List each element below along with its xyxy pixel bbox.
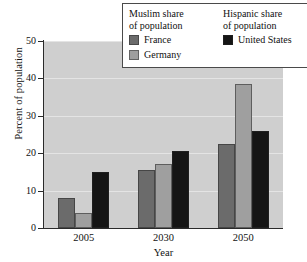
y-axis-tick-label: 20 bbox=[2, 148, 36, 158]
x-axis-tick-label-2030: 2030 bbox=[134, 232, 194, 243]
bar-germany-2050 bbox=[235, 84, 252, 228]
y-axis-tick-label: 40 bbox=[2, 73, 36, 83]
y-axis-tick-label-wrap: 30 bbox=[0, 111, 36, 121]
legend-label-france: France bbox=[144, 34, 171, 45]
plot-area bbox=[44, 41, 283, 228]
x-axis-line bbox=[43, 228, 283, 229]
y-axis-tick-label: 0 bbox=[2, 223, 36, 233]
bar-france-2050 bbox=[218, 144, 235, 228]
y-axis-tick-label: 30 bbox=[2, 111, 36, 121]
bar-germany-2030 bbox=[155, 164, 172, 228]
x-axis-tick-label-2050: 2050 bbox=[213, 232, 273, 243]
y-axis-tick-label-wrap: 50 bbox=[0, 36, 36, 46]
bar-united-states-2005 bbox=[92, 172, 109, 228]
legend-item-united-states: United States bbox=[223, 33, 307, 46]
legend-item-germany: Germany bbox=[129, 48, 221, 61]
y-axis-line bbox=[43, 40, 44, 229]
legend-swatch-germany-icon bbox=[129, 50, 139, 60]
legend-column-muslim: Muslim share of population France German… bbox=[129, 8, 221, 61]
legend-heading-line1: Hispanic share bbox=[223, 8, 307, 20]
legend-label-united-states: United States bbox=[238, 34, 292, 45]
legend-heading-line1: Muslim share bbox=[129, 8, 221, 20]
y-axis-tick-label-wrap: 20 bbox=[0, 148, 36, 158]
legend-swatch-united-states-icon bbox=[223, 35, 233, 45]
bar-germany-2005 bbox=[75, 213, 92, 228]
y-axis-tick-label-wrap: 40 bbox=[0, 73, 36, 83]
bar-chart-figure: Percent of population 01020304050 200520… bbox=[0, 0, 307, 262]
gridline bbox=[44, 78, 283, 79]
y-axis-tick-label-wrap: 0 bbox=[0, 223, 36, 233]
x-axis-tick-label-2005: 2005 bbox=[54, 232, 114, 243]
legend-item-france: France bbox=[129, 33, 221, 46]
x-axis-title: Year bbox=[44, 247, 283, 258]
bar-united-states-2030 bbox=[172, 151, 189, 228]
legend-heading-line2: of population bbox=[129, 20, 221, 32]
legend-label-germany: Germany bbox=[144, 49, 181, 60]
y-axis-tick-label: 10 bbox=[2, 186, 36, 196]
y-axis-tick-label: 50 bbox=[2, 36, 36, 46]
y-axis-tick-label-wrap: 10 bbox=[0, 186, 36, 196]
legend-heading-line2: of population bbox=[223, 20, 307, 32]
bar-france-2005 bbox=[58, 198, 75, 228]
legend-column-hispanic: Hispanic share of population United Stat… bbox=[223, 8, 307, 46]
bar-france-2030 bbox=[138, 170, 155, 228]
chart-legend: Muslim share of population France German… bbox=[122, 3, 307, 68]
bar-united-states-2050 bbox=[252, 131, 269, 228]
legend-swatch-france-icon bbox=[129, 35, 139, 45]
